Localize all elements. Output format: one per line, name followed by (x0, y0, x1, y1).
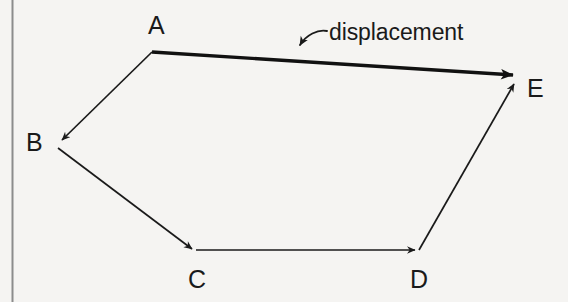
point-label-c: C (188, 267, 206, 292)
resultant-displacement-vector (152, 52, 513, 75)
point-label-d: D (410, 267, 428, 292)
point-label-b: B (26, 130, 43, 155)
vector-segment-ab (62, 52, 152, 140)
vector-segment-bc (58, 148, 192, 249)
displacement-annotation-label: displacement (329, 21, 463, 44)
vector-diagram-canvas (0, 0, 568, 302)
vector-segment-de (419, 84, 514, 250)
displacement-leader-arrow (300, 31, 327, 45)
point-label-a: A (148, 13, 165, 38)
point-label-e: E (527, 76, 544, 101)
vector-diagram: A B C D E displacement (0, 0, 568, 302)
